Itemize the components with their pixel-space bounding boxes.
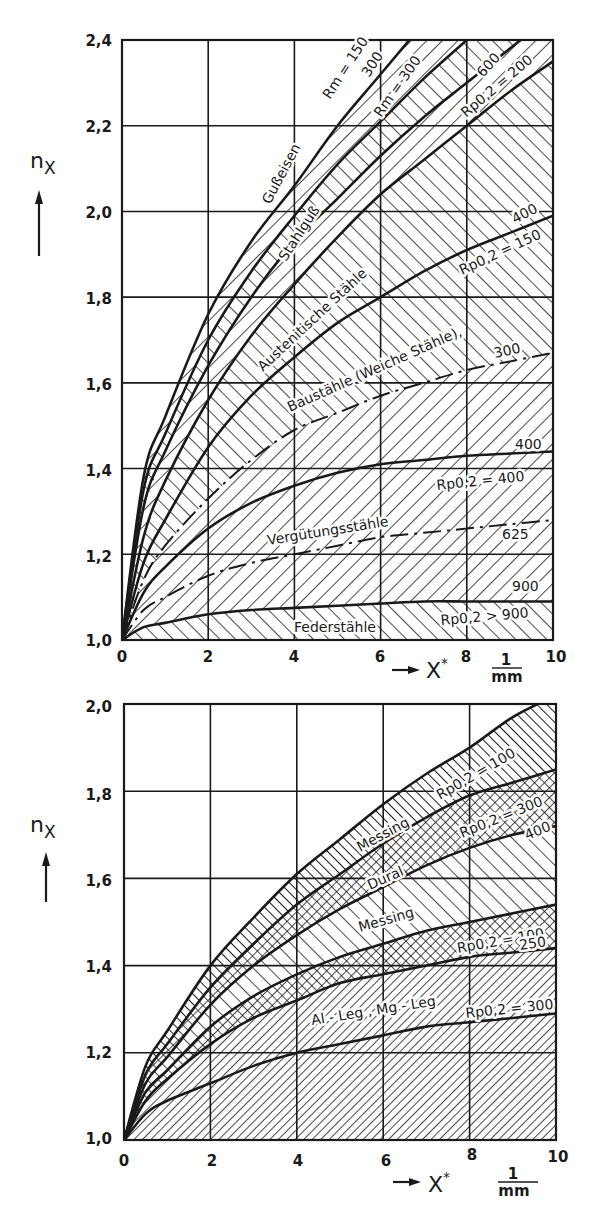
label-federstaehle: Federstähle xyxy=(294,619,376,635)
svg-text:nX: nX xyxy=(30,148,56,178)
bottom-x-axis-label: X* 1 mm xyxy=(393,1165,538,1200)
x-tick: 0 xyxy=(117,648,127,666)
x-tick: 0 xyxy=(119,1152,129,1170)
chart-canvas: 2,4 2,2 2,0 1,8 1,6 1,4 1,2 1,0 0 2 4 6 … xyxy=(0,0,590,1232)
y-tick: 1,6 xyxy=(85,376,112,394)
bottom-y-axis-label: nX xyxy=(30,812,56,902)
arrow-head-icon xyxy=(42,852,50,866)
y-tick: 1,8 xyxy=(85,786,112,804)
y-tick: 2,4 xyxy=(85,32,112,50)
y-tick: 2,2 xyxy=(85,118,112,136)
y-tick: 1,4 xyxy=(85,958,112,976)
bottom-chart: 2,0 1,8 1,6 1,4 1,2 1,0 0 2 4 6 8 10 nX … xyxy=(30,695,568,1200)
label-400-b: 400 xyxy=(515,436,542,452)
x-tick: 4 xyxy=(289,648,299,666)
top-x-axis-label: X* 1 mm xyxy=(392,651,523,686)
label-625: 625 xyxy=(502,526,529,542)
svg-text:mm: mm xyxy=(498,1182,529,1200)
x-tick: 8 xyxy=(461,648,471,666)
svg-text:1: 1 xyxy=(501,651,511,669)
y-tick: 2,0 xyxy=(85,204,112,222)
y-tick: 1,0 xyxy=(85,632,112,650)
y-tick: 1,2 xyxy=(85,548,112,566)
x-tick: 6 xyxy=(381,1152,391,1170)
svg-text:mm: mm xyxy=(491,668,522,686)
arrow-head-icon xyxy=(35,190,43,204)
x-tick: 2 xyxy=(207,1152,217,1170)
x-tick: 2 xyxy=(203,648,213,666)
y-tick: 1,2 xyxy=(85,1044,112,1062)
x-tick: 10 xyxy=(546,648,567,666)
svg-text:X*: X* xyxy=(426,655,448,683)
x-tick: 8 xyxy=(467,1146,477,1164)
y-tick: 1,6 xyxy=(85,872,112,890)
y-tick: 2,0 xyxy=(85,698,112,716)
top-y-tick-labels: 2,4 2,2 2,0 1,8 1,6 1,4 1,2 1,0 xyxy=(85,32,112,650)
top-chart: 2,4 2,2 2,0 1,8 1,6 1,4 1,2 1,0 0 2 4 6 … xyxy=(30,0,566,686)
top-y-axis-label: nX xyxy=(30,148,56,256)
bottom-x-tick-labels: 0 2 4 6 8 10 xyxy=(119,1146,569,1170)
x-tick: 10 xyxy=(548,1148,569,1166)
svg-text:X*: X* xyxy=(428,1169,450,1197)
y-tick: 1,8 xyxy=(85,290,112,308)
x-tick: 4 xyxy=(293,1152,303,1170)
y-tick: 1,0 xyxy=(85,1130,112,1148)
x-tick: 6 xyxy=(375,648,385,666)
svg-text:nX: nX xyxy=(30,812,56,842)
y-tick: 1,4 xyxy=(85,462,112,480)
bottom-y-tick-labels: 2,0 1,8 1,6 1,4 1,2 1,0 xyxy=(85,698,112,1148)
top-x-tick-labels: 0 2 4 6 8 10 xyxy=(117,648,567,666)
svg-text:1: 1 xyxy=(508,1165,518,1183)
label-900: 900 xyxy=(512,578,539,594)
